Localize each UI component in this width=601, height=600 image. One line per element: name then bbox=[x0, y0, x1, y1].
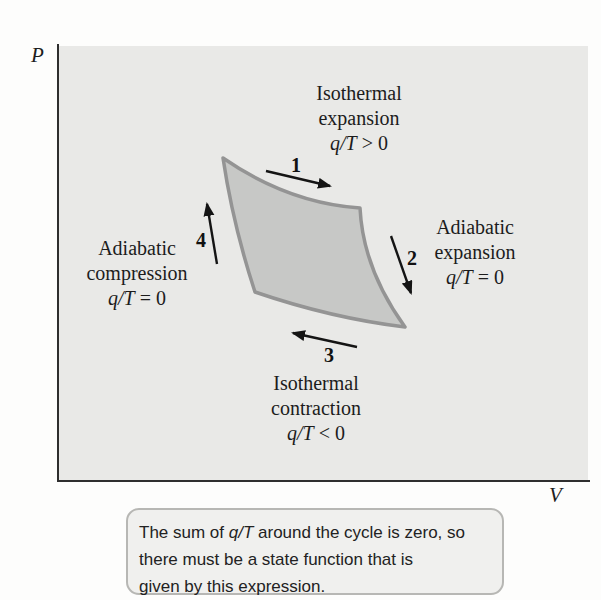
qt-term: q/T bbox=[108, 287, 135, 309]
x-axis-label: V bbox=[549, 483, 562, 508]
label-line: expansion bbox=[434, 240, 515, 265]
caption-text: around the cycle is zero, so bbox=[253, 523, 465, 542]
label-condition: q/T = 0 bbox=[86, 286, 187, 311]
qt-term: q/T bbox=[287, 422, 314, 444]
label-line: Isothermal bbox=[316, 81, 402, 106]
caption-box: The sum of q/T around the cycle is zero,… bbox=[126, 508, 504, 595]
relation-term: < 0 bbox=[314, 422, 345, 444]
label-condition: q/T > 0 bbox=[316, 131, 402, 156]
label-adiabatic-expansion: Adiabatic expansion q/T = 0 bbox=[434, 215, 515, 290]
label-isothermal-contraction: Isothermal contraction q/T < 0 bbox=[271, 371, 361, 446]
label-line: Isothermal bbox=[271, 371, 361, 396]
relation-term: = 0 bbox=[135, 287, 166, 309]
caption-line-2: there must be a state function that is bbox=[139, 546, 494, 573]
qt-term: q/T bbox=[330, 132, 357, 154]
label-line: contraction bbox=[271, 396, 361, 421]
label-isothermal-expansion: Isothermal expansion q/T > 0 bbox=[316, 81, 402, 156]
caption-line-3: given by this expression. bbox=[139, 573, 494, 600]
qt-term: q/T bbox=[446, 266, 473, 288]
label-condition: q/T < 0 bbox=[271, 421, 361, 446]
label-line: compression bbox=[86, 261, 187, 286]
caption-text: The sum of bbox=[139, 523, 229, 542]
y-axis-label: P bbox=[31, 43, 44, 68]
relation-term: = 0 bbox=[473, 266, 504, 288]
label-line: expansion bbox=[316, 106, 402, 131]
label-condition: q/T = 0 bbox=[434, 265, 515, 290]
step-1-number: 1 bbox=[291, 154, 301, 177]
relation-term: > 0 bbox=[357, 132, 388, 154]
label-line: Adiabatic bbox=[86, 236, 187, 261]
label-adiabatic-compression: Adiabatic compression q/T = 0 bbox=[86, 236, 187, 311]
step-4-number: 4 bbox=[196, 229, 206, 252]
step-3-number: 3 bbox=[324, 344, 334, 367]
step-2-number: 2 bbox=[407, 247, 417, 270]
pv-diagram-figure: P V 1 2 3 4 Isothermal expansion q/T > 0… bbox=[0, 0, 601, 600]
caption-line-1: The sum of q/T around the cycle is zero,… bbox=[139, 519, 494, 546]
label-line: Adiabatic bbox=[434, 215, 515, 240]
qt-term: q/T bbox=[229, 523, 254, 542]
